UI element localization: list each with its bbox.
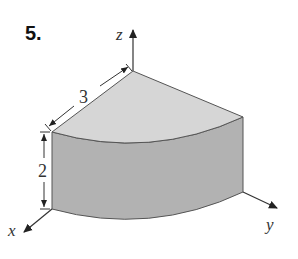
height-dimension: 2 [38, 132, 50, 209]
height-label: 2 [38, 161, 47, 181]
x-axis-label: x [7, 221, 16, 240]
radius-label: 3 [79, 87, 88, 107]
y-axis [243, 192, 277, 208]
quarter-cylinder-figure: z x y 3 2 [0, 0, 298, 259]
x-axis [24, 209, 52, 232]
y-axis-label: y [264, 215, 274, 234]
z-axis-label: z [115, 25, 123, 44]
